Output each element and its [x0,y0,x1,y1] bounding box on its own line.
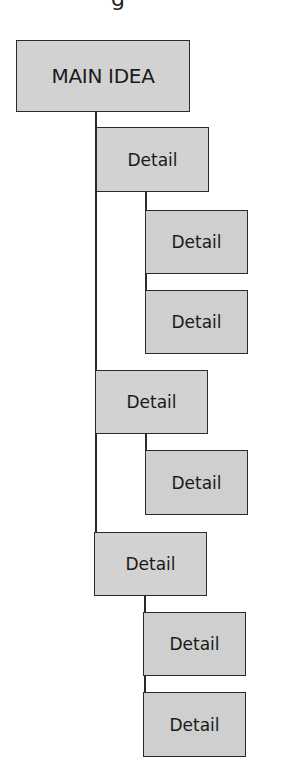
main-idea-box: MAIN IDEA [16,40,190,112]
detail-label: Detail [127,150,177,170]
sub-detail-label: Detail [171,232,221,252]
sub-detail-box-3-1: Detail [143,612,246,676]
sub-detail-label: Detail [169,634,219,654]
sub-detail-label: Detail [171,473,221,493]
detail-label: Detail [125,554,175,574]
detail-box-3: Detail [94,532,207,596]
sub-detail-box-1-2: Detail [145,290,248,354]
detail-label: Detail [126,392,176,412]
sub-detail-label: Detail [171,312,221,332]
cut-off-heading-fragment: g [111,0,125,11]
sub-detail-box-3-2: Detail [143,692,246,757]
sub-detail-box-1-1: Detail [145,210,248,274]
detail-box-2: Detail [95,370,208,434]
detail-box-1: Detail [96,127,209,192]
sub-detail-label: Detail [169,715,219,735]
detail-2-connector-line [145,434,147,450]
sub-detail-box-2-1: Detail [145,450,248,515]
main-idea-label: MAIN IDEA [51,64,154,88]
